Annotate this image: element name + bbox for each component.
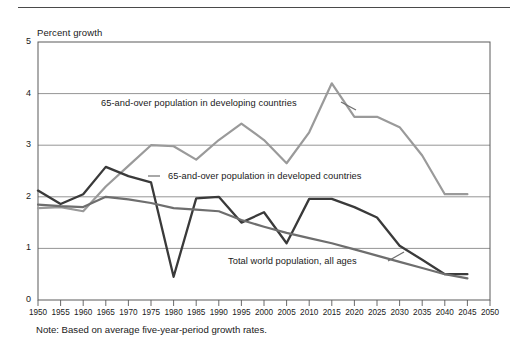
y-tick-label: 1 [17, 242, 31, 252]
y-tick-label: 0 [17, 294, 31, 304]
series-label-developing: 65-and-over population in developing cou… [101, 98, 297, 108]
label-leader-lines [148, 102, 404, 261]
figure-note: Note: Based on average five-year-period … [36, 324, 267, 335]
y-tick-label: 4 [17, 88, 31, 98]
y-tick-label: 5 [17, 36, 31, 46]
leader-line [388, 252, 404, 261]
y-tick-label: 2 [17, 191, 31, 201]
x-axis-ticks [38, 300, 490, 306]
series-label-developed: 65-and-over population in developed coun… [168, 171, 362, 181]
x-tick-label: 2050 [475, 308, 505, 317]
series-label-world: Total world population, all ages [228, 256, 357, 266]
y-tick-label: 3 [17, 139, 31, 149]
chart-figure: Percent growth 012345 195019551960196519… [0, 0, 525, 346]
series-line-2 [38, 197, 467, 279]
